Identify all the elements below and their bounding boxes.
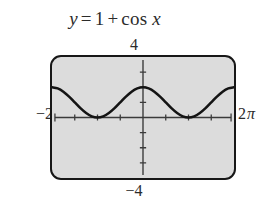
page-title: y=1+cos x xyxy=(0,8,230,30)
x-axis-max-number: 2 xyxy=(238,105,246,122)
axes-group xyxy=(55,60,231,175)
y-axis-max-label: 4 xyxy=(118,36,150,54)
x-axis-max-label: 2π xyxy=(238,105,267,123)
figure-container: y=1+cos x 4 −2π 2π −4 xyxy=(0,0,267,207)
graphing-calculator-window xyxy=(50,55,236,180)
title-variable: x xyxy=(152,8,161,29)
title-lhs: y xyxy=(69,8,78,29)
title-function: cos xyxy=(121,8,147,29)
title-equals: = xyxy=(78,8,95,29)
plot-area xyxy=(52,57,234,178)
title-plus: + xyxy=(104,8,121,29)
y-axis-min-label: −4 xyxy=(118,182,150,200)
title-constant: 1 xyxy=(95,8,105,29)
x-axis-max-pi: π xyxy=(246,105,255,122)
